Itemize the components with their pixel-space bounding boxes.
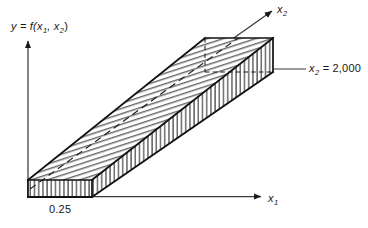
x1-width-annotation: 0.25 [49,203,71,215]
x2-axis-label: x2 [277,3,287,15]
y-axis-label: y = f(x1, x2) [11,20,68,32]
x2-value-annotation: x2 = 2,000 [309,62,361,74]
x2-axis-line [231,11,272,40]
figure-drawing [0,0,368,228]
figure-root: y = f(x1, x2) x1 x2 x2 = 2,000 0.25 [0,0,368,228]
x1-axis-label: x1 [268,192,278,204]
function-slab [28,38,273,197]
slab-top-face [28,38,273,180]
slab-near-end-face [28,180,92,197]
